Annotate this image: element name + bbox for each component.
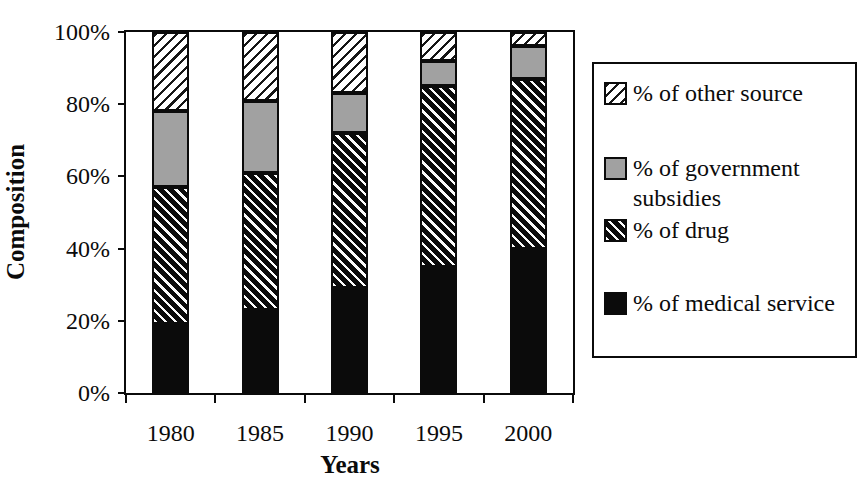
x-tick-4 bbox=[483, 395, 485, 403]
bar-segment-1980-light-diagonal-hatch bbox=[152, 32, 189, 111]
legend-label: % of government subsidies bbox=[633, 153, 847, 213]
y-tick-40 bbox=[118, 248, 126, 250]
y-tick-label-100: 100% bbox=[18, 17, 110, 47]
x-category-label-2000: 2000 bbox=[483, 419, 573, 447]
bar-segment-1980-solid-black bbox=[152, 324, 189, 393]
x-tick-0 bbox=[125, 395, 127, 403]
bar-1990 bbox=[331, 32, 368, 393]
legend-entry: % of government subsidies bbox=[604, 153, 847, 213]
legend-label: % of other source bbox=[633, 78, 803, 108]
bar-segment-1985-black-diagonal-hatch bbox=[242, 173, 279, 310]
x-category-label-1995: 1995 bbox=[394, 419, 484, 447]
x-category-label-1990: 1990 bbox=[305, 419, 395, 447]
y-tick-100 bbox=[118, 31, 126, 33]
legend-entry: % of medical service bbox=[604, 288, 847, 318]
bar-2000 bbox=[510, 32, 547, 393]
bar-segment-1995-gray-solid bbox=[420, 61, 457, 86]
bar-1985 bbox=[242, 32, 279, 393]
x-axis-title: Years bbox=[290, 451, 410, 479]
y-tick-60 bbox=[118, 175, 126, 177]
bar-segment-2000-solid-black bbox=[510, 249, 547, 393]
y-tick-label-40: 40% bbox=[18, 234, 110, 264]
legend-label: % of drug bbox=[633, 215, 729, 245]
bar-segment-1985-solid-black bbox=[242, 310, 279, 393]
x-category-label-1980: 1980 bbox=[126, 419, 216, 447]
bar-1980 bbox=[152, 32, 189, 393]
bar-segment-2000-black-diagonal-hatch bbox=[510, 79, 547, 249]
legend-swatch-solid-black bbox=[604, 292, 627, 315]
bar-segment-1990-black-diagonal-hatch bbox=[331, 133, 368, 288]
bar-segment-1990-gray-solid bbox=[331, 93, 368, 133]
y-tick-label-80: 80% bbox=[18, 89, 110, 119]
bar-segment-1995-light-diagonal-hatch bbox=[420, 32, 457, 61]
y-tick-80 bbox=[118, 103, 126, 105]
plot-area bbox=[124, 30, 575, 395]
y-tick-label-20: 20% bbox=[18, 306, 110, 336]
bar-segment-1995-solid-black bbox=[420, 267, 457, 393]
bar-1995 bbox=[420, 32, 457, 393]
bar-segment-1985-gray-solid bbox=[242, 101, 279, 173]
bar-segment-2000-gray-solid bbox=[510, 46, 547, 78]
bar-segment-1980-black-diagonal-hatch bbox=[152, 187, 189, 324]
x-tick-2 bbox=[304, 395, 306, 403]
stacked-bar-chart-figure: Composition 0%20%40%60%80%100% 198019851… bbox=[0, 0, 864, 499]
y-tick-label-60: 60% bbox=[18, 161, 110, 191]
x-tick-1 bbox=[214, 395, 216, 403]
y-tick-label-0: 0% bbox=[18, 378, 110, 408]
legend-box: % of other source% of government subsidi… bbox=[592, 62, 857, 358]
bar-segment-1995-black-diagonal-hatch bbox=[420, 86, 457, 267]
x-category-label-1985: 1985 bbox=[215, 419, 305, 447]
legend-entry: % of drug bbox=[604, 215, 847, 245]
legend-label: % of medical service bbox=[633, 288, 835, 318]
bar-segment-2000-light-diagonal-hatch bbox=[510, 32, 547, 46]
legend-swatch-black-diagonal-hatch bbox=[604, 219, 627, 242]
legend-swatch-gray-solid bbox=[604, 157, 627, 180]
legend-entry: % of other source bbox=[604, 78, 847, 108]
x-tick-3 bbox=[393, 395, 395, 403]
y-tick-20 bbox=[118, 320, 126, 322]
y-tick-0 bbox=[118, 392, 126, 394]
legend-swatch-light-diagonal-hatch bbox=[604, 82, 627, 105]
bar-segment-1990-solid-black bbox=[331, 288, 368, 393]
bar-segment-1990-light-diagonal-hatch bbox=[331, 32, 368, 93]
x-tick-5 bbox=[572, 395, 574, 403]
bar-segment-1980-gray-solid bbox=[152, 111, 189, 187]
bar-segment-1985-light-diagonal-hatch bbox=[242, 32, 279, 101]
